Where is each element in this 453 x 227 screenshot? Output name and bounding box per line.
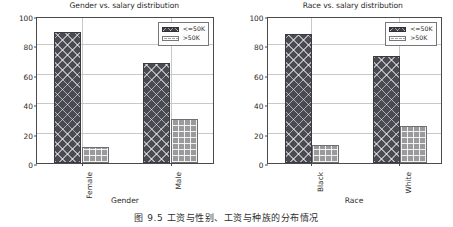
legend-swatch-low-icon bbox=[162, 27, 179, 32]
y-tick-0: 0 bbox=[28, 161, 33, 170]
y-tick-20: 20 bbox=[24, 131, 33, 140]
y-tick-60: 60 bbox=[254, 72, 263, 81]
legend-swatch-high-icon bbox=[389, 36, 406, 41]
y-tick-100: 100 bbox=[249, 14, 263, 23]
y-tick-mark-40 bbox=[265, 106, 268, 107]
y-tick-40: 40 bbox=[254, 102, 263, 111]
y-tick-mark-0 bbox=[265, 165, 268, 166]
legend-swatch-high-icon bbox=[162, 36, 179, 41]
chart-title-gender: Gender vs. salary distribution bbox=[0, 1, 227, 10]
legend-row-low: <=50K bbox=[162, 25, 205, 34]
bar-black-low bbox=[285, 34, 312, 163]
bar-male-high bbox=[171, 119, 198, 163]
y-tick-60: 60 bbox=[24, 72, 33, 81]
y-tick-80: 80 bbox=[24, 43, 33, 52]
legend-label-low: <=50K bbox=[183, 26, 205, 33]
bar-white-low bbox=[373, 56, 400, 163]
bar-white-high bbox=[400, 126, 427, 163]
legend-gender[interactable]: <=50K >50K bbox=[158, 22, 209, 46]
legend-row-low: <=50K bbox=[389, 25, 432, 34]
y-tick-mark-80 bbox=[265, 47, 268, 48]
legend-race[interactable]: <=50K >50K bbox=[385, 22, 436, 46]
y-tick-mark-100 bbox=[265, 18, 268, 19]
y-tick-20: 20 bbox=[254, 131, 263, 140]
figure-container: Gender vs. salary distribution % of gend… bbox=[0, 0, 453, 227]
plot-area-race: 0 20 40 60 80 100 Black W bbox=[267, 17, 442, 164]
bar-male-low bbox=[143, 63, 170, 163]
y-tick-mark-80 bbox=[34, 47, 37, 48]
y-tick-mark-0 bbox=[34, 165, 37, 166]
x-tick-mark-white bbox=[399, 163, 400, 166]
legend-label-high: >50K bbox=[183, 35, 200, 42]
gridline-vertical-female bbox=[82, 18, 83, 163]
bar-female-high bbox=[82, 147, 109, 163]
chart-panels: Gender vs. salary distribution % of gend… bbox=[0, 0, 453, 210]
x-tick-mark-female bbox=[82, 163, 83, 166]
legend-row-high: >50K bbox=[389, 34, 432, 43]
legend-label-low: <=50K bbox=[410, 26, 432, 33]
x-tick-mark-black bbox=[311, 163, 312, 166]
bar-female-low bbox=[54, 32, 81, 163]
y-tick-mark-40 bbox=[34, 106, 37, 107]
y-tick-0: 0 bbox=[259, 161, 264, 170]
y-tick-mark-60 bbox=[34, 76, 37, 77]
legend-row-high: >50K bbox=[162, 34, 205, 43]
y-tick-40: 40 bbox=[24, 102, 33, 111]
bar-black-high bbox=[312, 145, 339, 163]
chart-panel-gender: Gender vs. salary distribution % of gend… bbox=[0, 0, 227, 210]
y-tick-100: 100 bbox=[19, 14, 33, 23]
y-tick-mark-20 bbox=[265, 135, 268, 136]
plot-area-gender: 0 20 40 60 80 100 Female bbox=[36, 17, 214, 164]
y-tick-mark-100 bbox=[34, 18, 37, 19]
chart-title-race: Race vs. salary distribution bbox=[227, 1, 453, 10]
legend-label-high: >50K bbox=[410, 35, 427, 42]
legend-swatch-low-icon bbox=[389, 27, 406, 32]
x-axis-label-gender: Gender bbox=[36, 196, 214, 205]
y-tick-mark-20 bbox=[34, 135, 37, 136]
x-axis-label-race: Race bbox=[267, 196, 442, 205]
figure-caption: 图 9.5 工资与性别、工资与种族的分布情况 bbox=[0, 211, 453, 227]
x-tick-mark-male bbox=[171, 163, 172, 166]
y-tick-mark-60 bbox=[265, 76, 268, 77]
y-tick-80: 80 bbox=[254, 43, 263, 52]
chart-panel-race: Race vs. salary distribution % of race p… bbox=[227, 0, 453, 210]
